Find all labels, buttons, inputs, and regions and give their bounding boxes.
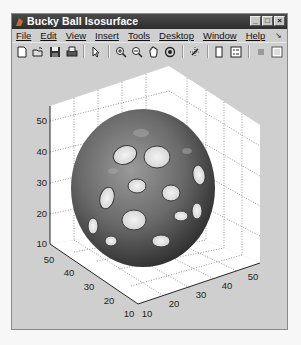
svg-text:30: 30: [84, 281, 95, 292]
svg-text:20: 20: [36, 208, 47, 219]
svg-text:40: 40: [36, 146, 47, 157]
svg-text:20: 20: [104, 295, 115, 306]
bucky-ball-isosurface: [71, 109, 215, 267]
z-axis-ticks: 50 40 30 20 10: [36, 115, 47, 249]
figure-canvas[interactable]: 50 40 30 20 10 50 40 30 20 10 10 20 30 4…: [12, 60, 287, 329]
svg-text:10: 10: [36, 238, 47, 249]
svg-text:20: 20: [169, 298, 180, 309]
svg-text:50: 50: [36, 115, 47, 126]
svg-text:30: 30: [36, 177, 47, 188]
svg-text:30: 30: [196, 289, 207, 300]
svg-text:10: 10: [124, 308, 135, 319]
svg-text:50: 50: [248, 271, 259, 282]
svg-text:50: 50: [44, 254, 55, 265]
svg-text:40: 40: [64, 267, 75, 278]
isosurface-axes[interactable]: 50 40 30 20 10 50 40 30 20 10 10 20 30 4…: [1, 1, 301, 345]
svg-text:10: 10: [142, 308, 153, 319]
svg-text:40: 40: [222, 280, 233, 291]
figure-window: Bucky Ball Isosurface _ □ × File Edit Vi…: [11, 13, 288, 330]
